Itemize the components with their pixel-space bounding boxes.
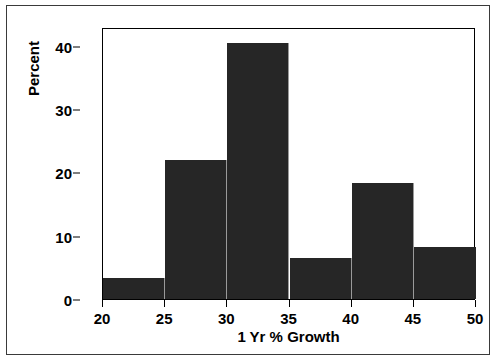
y-tick-mark xyxy=(73,300,80,301)
bar xyxy=(165,160,227,299)
x-tick-mark xyxy=(164,300,165,307)
x-tick-label: 25 xyxy=(156,310,173,327)
plot-area xyxy=(102,28,475,300)
x-axis: 20253035404550 xyxy=(102,300,475,330)
bar xyxy=(352,183,414,299)
x-tick-label: 30 xyxy=(218,310,235,327)
y-tick-label: 40 xyxy=(55,38,72,55)
chart-frame: 010203040 Percent 20253035404550 1 Yr % … xyxy=(6,5,490,355)
bar xyxy=(290,258,352,299)
y-tick-label: 30 xyxy=(55,102,72,119)
x-tick-mark xyxy=(413,300,414,307)
y-tick-label: 20 xyxy=(55,165,72,182)
y-tick-label: 0 xyxy=(64,292,72,309)
bar xyxy=(103,278,165,299)
x-tick-mark xyxy=(289,300,290,307)
y-tick-mark xyxy=(73,110,80,111)
y-tick-label: 10 xyxy=(55,228,72,245)
bar xyxy=(227,43,289,299)
bar xyxy=(414,247,476,299)
y-tick-mark xyxy=(73,236,80,237)
x-tick-mark xyxy=(475,300,476,307)
y-axis-title: Percent xyxy=(25,41,42,96)
bar-series xyxy=(103,29,474,299)
y-tick-mark xyxy=(73,173,80,174)
x-tick-mark xyxy=(102,300,103,307)
x-tick-label: 50 xyxy=(467,310,484,327)
x-tick-label: 20 xyxy=(94,310,111,327)
x-axis-title: 1 Yr % Growth xyxy=(102,328,475,345)
x-tick-label: 40 xyxy=(342,310,359,327)
x-tick-mark xyxy=(351,300,352,307)
x-tick-label: 45 xyxy=(404,310,421,327)
y-axis: 010203040 xyxy=(7,6,102,300)
x-tick-mark xyxy=(226,300,227,307)
x-tick-label: 35 xyxy=(280,310,297,327)
y-tick-mark xyxy=(73,46,80,47)
